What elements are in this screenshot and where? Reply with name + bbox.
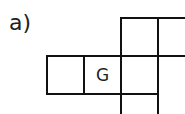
cell-letter-g: G [96, 67, 109, 84]
cube-net-diagram [0, 0, 185, 114]
